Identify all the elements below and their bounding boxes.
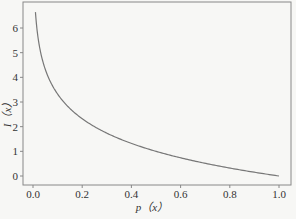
x-tick-label: 0.8: [223, 188, 237, 200]
y-tick-label: 3: [13, 96, 19, 108]
y-axis-ticks: 0123456: [13, 22, 24, 182]
y-tick-label: 0: [13, 170, 19, 182]
x-tick-label: 0.2: [75, 188, 89, 200]
information-curve: [35, 12, 279, 176]
x-tick-label: 0.0: [26, 188, 40, 200]
x-axis-label: p（x）: [135, 201, 168, 213]
y-tick-label: 2: [13, 121, 19, 133]
y-tick-label: 5: [13, 47, 19, 59]
plot-frame: [23, 2, 291, 185]
y-tick-label: 4: [13, 71, 19, 83]
y-tick-label: 6: [13, 22, 19, 34]
x-axis-ticks: 0.00.20.40.60.81.0: [26, 185, 286, 200]
y-tick-label: 1: [13, 145, 19, 157]
x-tick-label: 0.4: [125, 188, 139, 200]
x-tick-label: 1.0: [272, 188, 286, 200]
x-tick-label: 0.6: [174, 188, 188, 200]
line-chart: 0123456 0.00.20.40.60.81.0 I（x） p（x）: [0, 0, 296, 219]
y-axis-label: I（x）: [1, 97, 13, 129]
